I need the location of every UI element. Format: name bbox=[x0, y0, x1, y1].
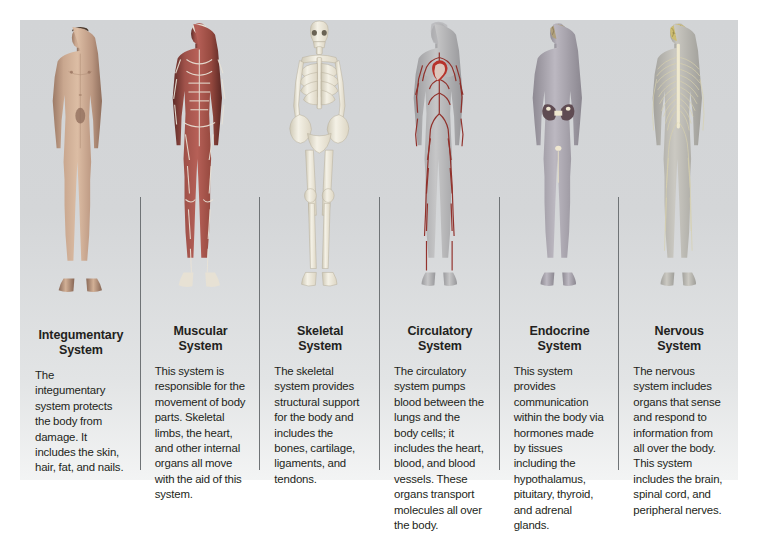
endocrine-body-figure bbox=[509, 20, 608, 306]
system-title: Integumentary System bbox=[35, 328, 127, 357]
circulatory-caption: Circulatory System The circulatory syste… bbox=[379, 306, 499, 533]
integumentary-figure-area bbox=[20, 20, 140, 310]
integumentary-body-figure bbox=[31, 24, 130, 310]
system-column-endocrine: Endocrine System This system provides co… bbox=[499, 20, 619, 480]
system-title: Muscular System bbox=[155, 324, 247, 353]
system-title: Nervous System bbox=[633, 324, 725, 353]
skeletal-caption: Skeletal System The skeletal system prov… bbox=[259, 306, 379, 487]
circulatory-figure-area bbox=[379, 20, 499, 306]
endocrine-figure-area bbox=[499, 20, 619, 306]
muscular-caption: Muscular System This system is responsib… bbox=[140, 306, 260, 503]
nervous-figure-area bbox=[618, 20, 738, 306]
muscular-body-figure bbox=[150, 20, 249, 306]
system-description: This system is responsible for the movem… bbox=[155, 364, 247, 503]
system-column-muscular: Muscular System This system is responsib… bbox=[140, 20, 260, 480]
system-column-circulatory: Circulatory System The circulatory syste… bbox=[379, 20, 499, 480]
system-title: Circulatory System bbox=[394, 324, 486, 353]
system-column-nervous: Nervous System The nervous system includ… bbox=[618, 20, 738, 480]
system-description: The circulatory system pumps blood betwe… bbox=[394, 364, 486, 533]
endocrine-caption: Endocrine System This system provides co… bbox=[499, 306, 619, 533]
systems-panel: Integumentary System The integumentary s… bbox=[20, 20, 738, 480]
system-description: The integumentary system protects the bo… bbox=[35, 368, 127, 476]
circulatory-body-figure bbox=[390, 20, 489, 306]
system-description: This system provides communication withi… bbox=[514, 364, 606, 533]
skeletal-figure-area bbox=[259, 20, 379, 306]
system-description: The nervous system includes organs that … bbox=[633, 364, 725, 518]
integumentary-caption: Integumentary System The integumentary s… bbox=[20, 310, 140, 476]
system-title: Skeletal System bbox=[274, 324, 366, 353]
system-column-skeletal: Skeletal System The skeletal system prov… bbox=[259, 20, 379, 480]
system-description: The skeletal system provides structural … bbox=[274, 364, 366, 487]
nervous-caption: Nervous System The nervous system includ… bbox=[618, 306, 738, 518]
muscular-figure-area bbox=[140, 20, 260, 306]
skeletal-body-figure bbox=[270, 20, 369, 306]
system-column-integumentary: Integumentary System The integumentary s… bbox=[20, 20, 140, 480]
system-title: Endocrine System bbox=[514, 324, 606, 353]
nervous-body-figure bbox=[629, 20, 728, 306]
